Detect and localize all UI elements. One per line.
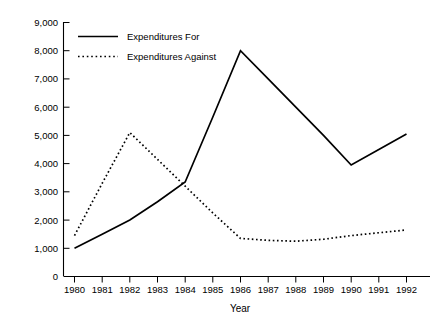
x-tick-label: 1980 [64,284,85,295]
x-tick-label: 1992 [396,284,417,295]
chart-container: 9,000 8,000 7,000 6,000 5,000 4,000 3,00… [0,0,439,319]
x-tick-label: 1990 [341,284,362,295]
x-axis-title: Year [230,303,251,314]
x-tick-label: 1989 [313,284,334,295]
y-tick-label: 9,000 [34,17,58,28]
x-tick-label: 1982 [119,284,140,295]
y-tick-label: 5,000 [34,130,58,141]
y-tick-label: 8,000 [34,45,58,56]
y-tick-label: 2,000 [34,215,58,226]
x-tick-label: 1981 [92,284,113,295]
y-tick-label: 7,000 [34,73,58,84]
y-tick-label: 1,000 [34,243,58,254]
line-chart: 9,000 8,000 7,000 6,000 5,000 4,000 3,00… [0,0,439,319]
y-tick-label: 0 [53,271,58,282]
chart-background [0,0,439,319]
y-tick-label: 4,000 [34,158,58,169]
x-tick-label: 1988 [285,284,306,295]
y-tick-label: 3,000 [34,186,58,197]
x-tick-label: 1984 [175,284,196,295]
x-tick-label: 1991 [368,284,389,295]
x-tick-label: 1986 [230,284,251,295]
y-tick-label: 6,000 [34,102,58,113]
legend-label-expenditures-against: Expenditures Against [127,51,217,62]
x-tick-label: 1985 [202,284,223,295]
x-tick-label: 1987 [258,284,279,295]
legend-label-expenditures-for: Expenditures For [127,31,199,42]
x-tick-label: 1983 [147,284,168,295]
